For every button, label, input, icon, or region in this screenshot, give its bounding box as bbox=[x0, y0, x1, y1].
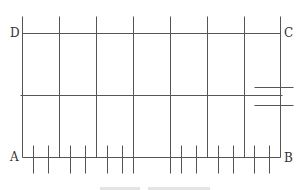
caption-fragment-0 bbox=[100, 187, 140, 190]
label-d: D bbox=[10, 27, 20, 39]
label-a: A bbox=[10, 151, 19, 163]
label-c: C bbox=[284, 27, 293, 39]
grid-diagram bbox=[0, 0, 301, 190]
caption-fragment-1 bbox=[148, 187, 210, 190]
label-b: B bbox=[284, 152, 293, 164]
